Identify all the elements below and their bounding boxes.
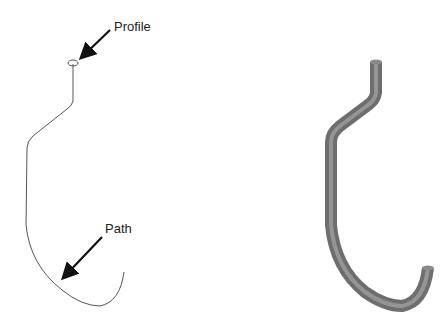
diagram-canvas: Profile Path [0,0,447,331]
path-label: Path [105,221,132,236]
swept-tube-view [331,60,434,307]
tube-end-top [370,60,382,65]
path-arrow [64,237,102,277]
profile-label: Profile [114,19,151,34]
sweep-path-line [26,64,124,306]
profile-arrow [82,30,110,57]
sketch-view: Profile Path [26,19,151,306]
tube-end-bottom [422,266,434,271]
